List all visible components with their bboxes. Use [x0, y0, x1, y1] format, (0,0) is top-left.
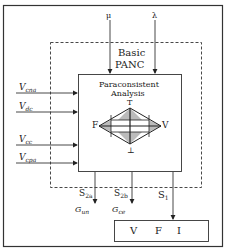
block-title-line2: PANC: [115, 60, 144, 70]
lattice-label-left: F: [92, 120, 98, 130]
mu-label: μ: [106, 11, 111, 21]
input-label-2: Vdc: [19, 101, 33, 114]
lambda-label: λ: [152, 11, 157, 21]
input-label-4: Vcpa: [19, 152, 36, 165]
result-f: F: [155, 226, 162, 236]
output-label-s2a: S2a: [79, 188, 93, 201]
lattice-label-right: V: [162, 120, 169, 130]
block-title-line1: Basic: [118, 48, 145, 58]
result-v: V: [130, 226, 137, 236]
output-target-gun: Gun: [75, 205, 89, 217]
input-label-3: Vcc: [19, 134, 32, 147]
input-label-1: Vcna: [19, 82, 36, 95]
lattice-label-bottom: ⊥: [127, 146, 135, 156]
output-target-gce: Gce: [112, 205, 125, 217]
result-i: I: [177, 226, 181, 236]
output-label-s1: S1: [158, 190, 169, 203]
output-label-s2b: S2b: [114, 188, 128, 201]
lattice-label-top: T: [127, 98, 132, 108]
lattice-diagram: [99, 108, 161, 144]
